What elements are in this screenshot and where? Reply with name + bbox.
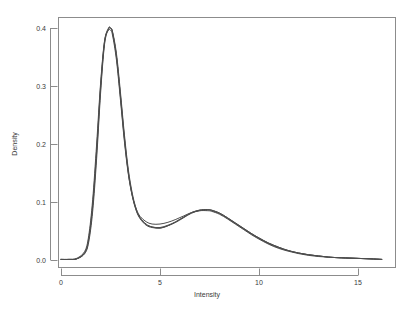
plot-canvas: 0.00.10.20.30.4 051015 Intensity Density [0,0,414,312]
x-tick-label: 5 [158,279,162,286]
x-tick-label: 15 [354,279,362,286]
y-tick-label: 0.3 [36,83,46,90]
y-tick-label: 0.0 [36,257,46,264]
y-tick-label: 0.2 [36,141,46,148]
y-tick-label: 0.4 [36,25,46,32]
x-tick-label: 10 [255,279,263,286]
y-axis-title: Density [11,132,19,156]
y-tick-label: 0.1 [36,199,46,206]
figure-background [0,0,414,312]
density-plot-figure: 0.00.10.20.30.4 051015 Intensity Density [0,0,414,312]
x-tick-label: 0 [59,279,63,286]
x-axis-title: Intensity [194,291,221,299]
